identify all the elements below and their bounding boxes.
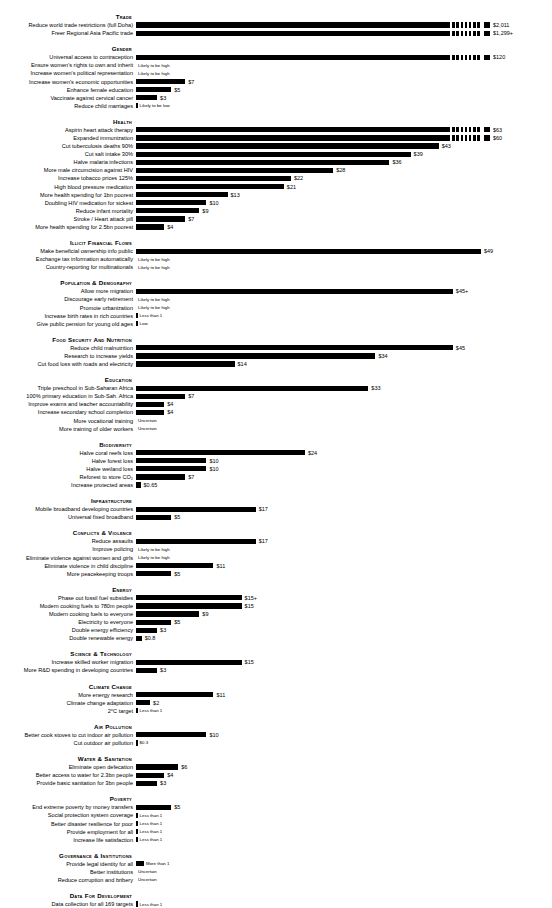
chart-row: Cut food loss with roads and electricity… xyxy=(0,360,552,368)
chart-group: Population & DemographyAllow more migrat… xyxy=(0,276,552,327)
group-title: Infrastructure xyxy=(0,497,136,505)
chart-row: Better disaster resilience for poorLess … xyxy=(0,819,552,827)
row-value: $120 xyxy=(490,54,505,60)
chart-group: EnergyPhase out fossil fuel subsidies$15… xyxy=(0,583,552,643)
row-label: Cut tuberculosis deaths 90% xyxy=(0,143,136,149)
row-label: More male circumcision against HIV xyxy=(0,167,136,173)
row-value: $13 xyxy=(228,192,240,198)
row-track: $10 xyxy=(136,457,552,465)
row-label: More health spending for 2.5bn poorest xyxy=(0,224,136,230)
chart-group: Water & SanitationEliminate open defecat… xyxy=(0,752,552,787)
row-bar-truncation xyxy=(448,31,482,36)
chart-row: Increase birth rates in rich countriesLe… xyxy=(0,312,552,320)
chart-row: More male circumcision against HIV$28 xyxy=(0,166,552,174)
row-note: Uncertain xyxy=(136,877,157,882)
row-bar xyxy=(136,135,448,140)
chart-row: Make beneficial ownership info public$49 xyxy=(0,247,552,255)
row-label: Increase life satisfaction xyxy=(0,837,136,843)
row-value: $9 xyxy=(199,208,208,214)
row-note: Less than 1 xyxy=(138,708,163,713)
row-value: $21 xyxy=(284,184,296,190)
row-track: $0.8 xyxy=(136,634,552,642)
row-track: $28 xyxy=(136,166,552,174)
row-track: $22 xyxy=(136,174,552,182)
row-label: Reduce world trade restrictions (full Do… xyxy=(0,22,136,28)
row-bar xyxy=(136,539,256,544)
chart-row: Expanded immunization$60 xyxy=(0,134,552,142)
chart-row: Halve coral reefs loss$24 xyxy=(0,449,552,457)
row-track: $11 xyxy=(136,691,552,699)
chart-row: Improve exams and teacher accountability… xyxy=(0,400,552,408)
row-track: $4 xyxy=(136,771,552,779)
row-value: $5 xyxy=(171,804,180,810)
row-note: Less than 1 xyxy=(138,829,163,834)
row-label: Better institutions xyxy=(0,869,136,875)
row-track: $63 xyxy=(136,126,552,134)
row-label: Mobile broadband developing countries xyxy=(0,506,136,512)
row-value: $7 xyxy=(185,474,194,480)
row-bar xyxy=(136,394,185,399)
row-bar xyxy=(136,458,206,463)
row-label: High blood pressure medication xyxy=(0,184,136,190)
row-note: Low xyxy=(138,321,148,326)
row-track: Low xyxy=(136,320,552,328)
row-label: Improve policing xyxy=(0,546,136,552)
row-label: Cut food loss with roads and electricity xyxy=(0,361,136,367)
row-label: Halve coral reefs loss xyxy=(0,450,136,456)
row-track: $4 xyxy=(136,400,552,408)
chart-row: Better cook stoves to cut indoor air pol… xyxy=(0,731,552,739)
row-note: Less than 1 xyxy=(138,902,163,907)
row-value: $5 xyxy=(171,514,180,520)
row-track: $5 xyxy=(136,570,552,578)
chart-group: HealthAspirin heart attack therapy$63Exp… xyxy=(0,115,552,231)
row-value: $5 xyxy=(171,87,180,93)
row-track: Likely to be high xyxy=(136,255,552,263)
row-value: $3 xyxy=(157,95,166,101)
row-track: Likely to be high xyxy=(136,545,552,553)
row-track: $6 xyxy=(136,763,552,771)
row-label: Cut outdoor air pollution xyxy=(0,740,136,746)
row-bar xyxy=(136,386,368,391)
row-label: Allow more migration xyxy=(0,288,136,294)
chart-row: Allow more migration$45+ xyxy=(0,287,552,295)
row-label: 100% primary education in Sub-Sah. Afric… xyxy=(0,393,136,399)
row-value: $28 xyxy=(333,167,345,173)
row-bar xyxy=(136,628,157,633)
row-note: Less than 1 xyxy=(138,313,163,318)
group-title-row: Conflicts & Violence xyxy=(0,526,552,537)
row-track: Likely to be high xyxy=(136,69,552,77)
group-title: Conflicts & Violence xyxy=(0,529,136,537)
row-value: $33 xyxy=(368,385,380,391)
benefit-cost-chart: TradeReduce world trade restrictions (fu… xyxy=(0,0,552,908)
chart-row: Eliminate violence in child discipline$1… xyxy=(0,562,552,570)
row-bar xyxy=(136,208,199,213)
row-label: Exchange tax information automatically xyxy=(0,256,136,262)
row-label: Increase tobacco prices 125% xyxy=(0,175,136,181)
row-track: $49 xyxy=(136,247,552,255)
row-label: More health spending for 1bn poorest xyxy=(0,192,136,198)
row-bar xyxy=(136,361,235,366)
chart-row: More health spending for 2.5bn poorest$4 xyxy=(0,223,552,231)
row-bar xyxy=(136,31,448,36)
row-note: Likely to be high xyxy=(136,71,170,76)
chart-row: Provide basic sanitation for 3bn people$… xyxy=(0,779,552,787)
chart-row: More peacekeeping troops$5 xyxy=(0,570,552,578)
row-track: Less than 1 xyxy=(136,828,552,836)
row-note: Uncertain xyxy=(136,426,157,431)
row-label: Reduce child malnutrition xyxy=(0,345,136,351)
chart-row: High blood pressure medication$21 xyxy=(0,183,552,191)
group-title-row: Data for Development xyxy=(0,889,552,900)
row-bar xyxy=(136,79,185,84)
row-value: $17 xyxy=(256,538,268,544)
row-bar-truncation xyxy=(448,22,482,27)
group-title-row: Population & Demography xyxy=(0,276,552,287)
row-label: Reduce child marriages xyxy=(0,103,136,109)
group-title-row: Biodiversity xyxy=(0,438,552,449)
group-title: Poverty xyxy=(0,795,136,803)
row-bar xyxy=(136,611,199,616)
row-note: Less than 1 xyxy=(138,813,163,818)
row-value: $15 xyxy=(242,659,254,665)
row-value: $34 xyxy=(375,353,387,359)
row-label: Eliminate open defecation xyxy=(0,764,136,770)
chart-row: Halve wetland loss$10 xyxy=(0,465,552,473)
